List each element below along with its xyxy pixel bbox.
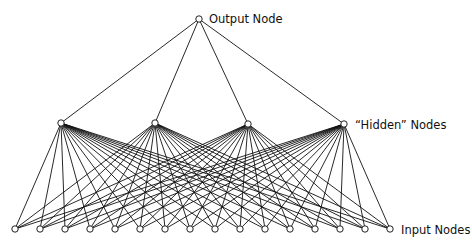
output-node xyxy=(196,16,202,22)
input-node xyxy=(112,226,118,232)
hidden-node xyxy=(245,121,251,127)
hidden-nodes-label: “Hidden” Nodes xyxy=(355,118,446,132)
edge-hidden-input xyxy=(155,123,365,229)
edge-hidden-input xyxy=(344,124,390,229)
edge-output-hidden xyxy=(199,19,344,124)
input-node xyxy=(212,226,218,232)
input-node xyxy=(262,226,268,232)
input-nodes-label: Input Nodes xyxy=(401,223,470,237)
input-node xyxy=(62,226,68,232)
edge-hidden-input xyxy=(15,123,61,229)
input-node xyxy=(337,226,343,232)
edge-hidden-input xyxy=(140,123,155,229)
connection-edges xyxy=(15,19,390,229)
edge-hidden-input xyxy=(215,124,344,229)
input-node xyxy=(187,226,193,232)
input-node xyxy=(87,226,93,232)
input-node xyxy=(12,226,18,232)
input-node xyxy=(237,226,243,232)
edge-hidden-input xyxy=(65,124,344,229)
hidden-node xyxy=(152,120,158,126)
input-node xyxy=(312,226,318,232)
input-node xyxy=(162,226,168,232)
edge-output-hidden xyxy=(199,19,248,124)
network-nodes xyxy=(12,16,393,232)
input-node xyxy=(287,226,293,232)
hidden-node xyxy=(341,121,347,127)
input-node xyxy=(362,226,368,232)
input-node xyxy=(387,226,393,232)
neural-network-diagram: Output Node “Hidden” Nodes Input Nodes xyxy=(0,0,472,247)
hidden-node xyxy=(58,120,64,126)
edge-output-hidden xyxy=(61,19,199,123)
edge-hidden-input xyxy=(190,124,248,229)
edge-hidden-input xyxy=(115,124,344,229)
input-node xyxy=(137,226,143,232)
input-node xyxy=(37,226,43,232)
edge-output-hidden xyxy=(155,19,199,123)
edge-hidden-input xyxy=(155,123,240,229)
output-node-label: Output Node xyxy=(209,12,283,26)
